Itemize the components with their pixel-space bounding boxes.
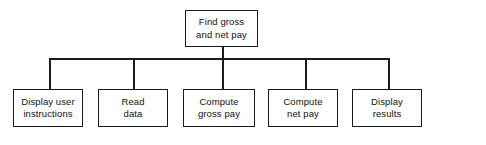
node-compute-gross-pay[interactable]: Compute gross pay xyxy=(183,89,255,127)
node-child-4-label: Compute net pay xyxy=(281,96,324,121)
connector-stem-child-5 xyxy=(388,58,390,89)
connector-stem-child-2 xyxy=(133,58,135,89)
connector-horizontal-bus xyxy=(49,58,390,60)
node-display-results[interactable]: Display results xyxy=(352,89,422,127)
connector-stem-child-1 xyxy=(49,58,51,89)
node-child-5-label: Display results xyxy=(369,96,405,121)
node-display-user-instructions[interactable]: Display user instructions xyxy=(13,89,83,127)
connector-stem-child-3 xyxy=(222,58,224,89)
structure-chart-canvas: Find gross and net pay Display user inst… xyxy=(0,0,486,145)
node-root[interactable]: Find gross and net pay xyxy=(185,10,258,47)
connector-stem-child-4 xyxy=(305,58,307,89)
node-read-data[interactable]: Read data xyxy=(98,89,168,127)
node-child-2-label: Read data xyxy=(119,96,146,121)
node-child-1-label: Display user instructions xyxy=(19,96,76,121)
node-compute-net-pay[interactable]: Compute net pay xyxy=(268,89,338,127)
node-root-label: Find gross and net pay xyxy=(194,16,249,41)
node-child-3-label: Compute gross pay xyxy=(196,96,242,121)
